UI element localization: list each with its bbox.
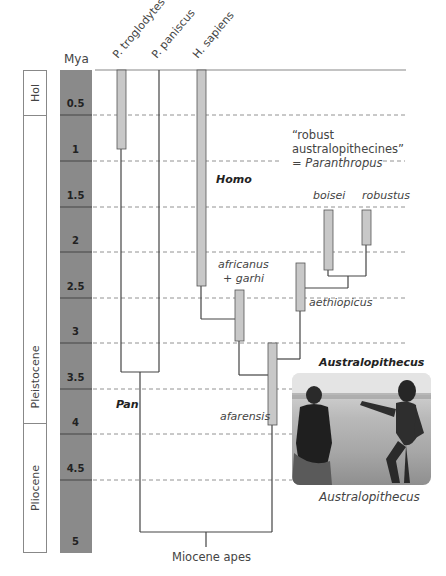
australopithecus-photo (292, 373, 431, 485)
tick-3: 3 (60, 326, 91, 337)
tick-2: 2 (60, 235, 91, 246)
bar-boisei (324, 210, 333, 270)
miocene-apes-label: Miocene apes (172, 550, 251, 564)
robust-label-line3: = Paranthropus (292, 156, 382, 170)
photo-caption: Australopithecus (319, 490, 420, 504)
robust-label-line2: australopithecines” (292, 142, 404, 156)
pan-label: Pan (116, 398, 139, 411)
afarensis-label: afarensis (220, 410, 270, 423)
tick-4: 4 (60, 417, 91, 428)
bar-p-troglodytes (117, 70, 126, 149)
aethiopicus-label: aethiopicus (309, 296, 372, 309)
tick-4-5: 4.5 (60, 463, 91, 474)
photo-figures (292, 373, 431, 485)
garhi-label: + garhi (223, 272, 264, 285)
tick-1: 1 (60, 144, 91, 155)
homo-label: Homo (216, 173, 252, 186)
bar-aethiopicus (296, 263, 305, 311)
australopithecus-label: Australopithecus (319, 356, 424, 369)
bar-h-sapiens (197, 70, 206, 286)
robustus-label: robustus (362, 189, 410, 202)
tick-0-5: 0.5 (60, 98, 91, 109)
africanus-label: africanus (218, 258, 269, 271)
bar-africanus-garhi (235, 290, 244, 341)
robust-equals: = (292, 156, 305, 170)
tick-1-5: 1.5 (60, 190, 91, 201)
paranthropus-label: Paranthropus (305, 156, 382, 170)
tick-5: 5 (60, 536, 91, 547)
tick-3-5: 3.5 (60, 372, 91, 383)
boisei-label: boisei (313, 189, 345, 202)
tick-2-5: 2.5 (60, 281, 91, 292)
bar-robustus (362, 210, 371, 245)
robust-label-line1: “robust (292, 128, 334, 142)
